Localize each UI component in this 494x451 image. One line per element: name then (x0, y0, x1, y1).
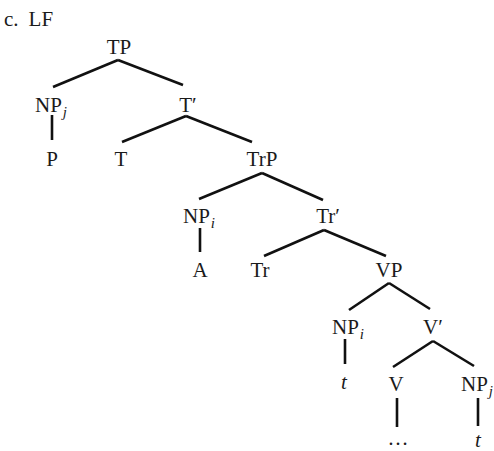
edge-trbar-vp (324, 230, 386, 256)
node-index: i (360, 326, 364, 342)
node-index: j (63, 104, 67, 120)
node-label: T (115, 147, 128, 171)
edge-trp-npi (199, 173, 262, 199)
node-a: A (192, 260, 207, 281)
node-label: Tr′ (316, 204, 340, 228)
node-label: Tr (250, 258, 269, 282)
node-npj-top: NPj (35, 95, 67, 116)
edge-trbar-tr (264, 230, 324, 256)
edge-vp-npi (349, 283, 389, 310)
node-index: i (211, 215, 215, 231)
node-t-head: T (115, 149, 128, 170)
node-label: T′ (179, 93, 196, 117)
node-vbar: V′ (423, 317, 443, 338)
node-label: TrP (247, 147, 278, 171)
node-label: NP (183, 204, 210, 228)
node-tr-head: Tr (250, 260, 269, 281)
node-trp: TrP (247, 149, 278, 170)
node-npi-low: NPi (332, 317, 364, 338)
node-trace-j: t (475, 430, 481, 451)
edge-tp-tbar (118, 60, 183, 85)
node-label: A (192, 258, 207, 282)
node-label: NP (461, 372, 488, 396)
tree-edges (0, 0, 494, 451)
node-label: VP (376, 258, 403, 282)
node-tbar: T′ (179, 95, 196, 116)
node-label: … (388, 426, 409, 450)
edge-vbar-v (393, 341, 433, 367)
node-ellipsis: … (388, 428, 409, 449)
edge-tbar-trp (186, 116, 252, 142)
node-trbar: Tr′ (316, 206, 340, 227)
edge-tbar-t (122, 116, 186, 142)
node-v-head: V (388, 374, 403, 395)
edge-trp-trbar (262, 173, 323, 200)
node-label: V (388, 372, 403, 396)
edge-tp-npj (53, 60, 118, 87)
node-label: t (475, 428, 481, 451)
node-vp: VP (376, 260, 403, 281)
node-label: V′ (423, 315, 443, 339)
node-trace-i: t (341, 372, 347, 393)
node-label: t (341, 370, 347, 394)
node-npj-low: NPj (461, 374, 493, 395)
edge-vbar-npj (433, 341, 474, 366)
node-label: NP (35, 93, 62, 117)
node-label: TP (107, 35, 132, 59)
node-label: P (46, 147, 58, 171)
node-index: j (489, 383, 493, 399)
node-npi-mid: NPi (183, 206, 215, 227)
edge-vp-vbar (389, 283, 430, 309)
node-tp: TP (107, 37, 132, 58)
node-label: NP (332, 315, 359, 339)
node-p: P (46, 149, 58, 170)
